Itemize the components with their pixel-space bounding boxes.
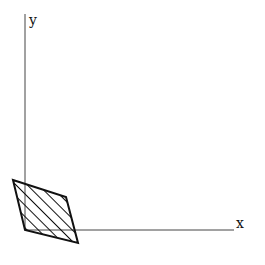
x-axis-label: x <box>236 215 244 231</box>
coordinate-plane: y x <box>0 0 265 265</box>
diagram-canvas: y x <box>0 0 265 265</box>
y-axis-label: y <box>28 12 37 28</box>
shaded-parallelogram <box>0 170 90 250</box>
